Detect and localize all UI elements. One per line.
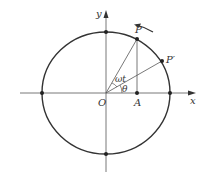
point-a [135,91,139,95]
point-right [168,91,172,95]
point-p-prime [160,59,164,63]
label-y-axis: y [95,8,102,19]
label-a: A [133,97,141,108]
point-left [40,91,44,95]
diagram-canvas: y x O P P′ A ωt θ [0,0,210,182]
label-theta: θ [122,84,128,94]
point-bottom [104,152,108,156]
label-omega-t: ωt [115,74,126,84]
point-top [104,30,108,34]
y-axis-arrow-icon [104,10,109,18]
label-origin: O [98,97,106,108]
point-p [135,37,139,41]
label-p: P [134,24,142,35]
label-p-prime: P′ [165,54,176,65]
label-x-axis: x [190,95,196,106]
